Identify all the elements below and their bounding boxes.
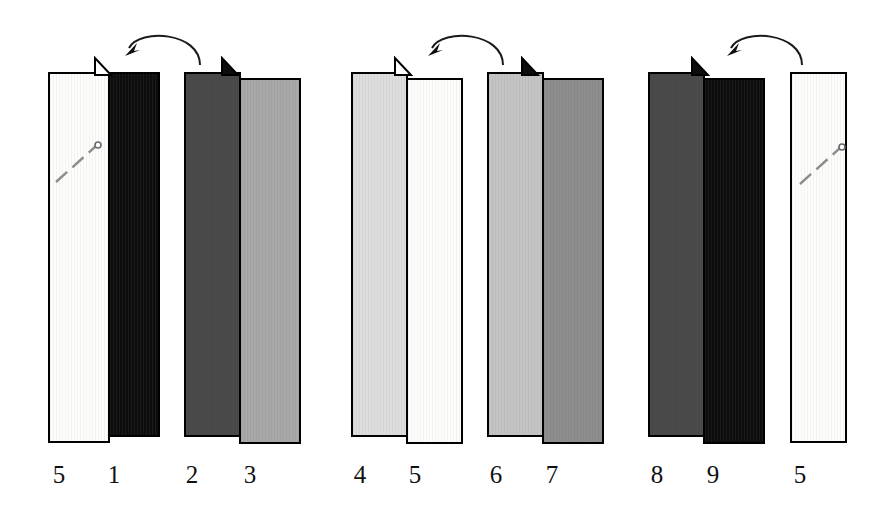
panel-number-label-5: 4 [340,462,380,487]
panel-number-label-11: 5 [780,462,820,487]
pin-marker-1 [52,140,108,186]
panel-number-label-3: 2 [172,462,212,487]
hinge-marker-2 [219,56,241,76]
panel-number-label-4: 3 [230,462,270,487]
panel-pairs-figure: 51234567895 [0,0,888,505]
panel-number-label-1: 5 [39,462,79,487]
panel-8 [648,72,705,437]
panel-number-label-6: 5 [395,462,435,487]
panel-9 [703,78,765,444]
flip-arrow-3 [720,24,808,66]
flip-arrow-2 [421,24,509,66]
panel-5 [406,78,463,444]
hinge-marker-4 [519,56,541,76]
panel-2 [184,72,241,437]
panel-4 [351,72,408,437]
panel-number-label-7: 6 [476,462,516,487]
hinge-marker-3 [392,56,414,76]
panel-7 [542,78,604,444]
hinge-marker-1 [92,56,114,76]
panel-number-label-9: 8 [637,462,677,487]
flip-arrow-1 [118,24,206,66]
panel-number-label-8: 7 [532,462,572,487]
panel-number-label-10: 9 [693,462,733,487]
panel-5 [48,72,110,443]
panel-3 [239,78,301,444]
hinge-marker-5 [689,56,711,76]
panel-1 [108,72,160,437]
figure-stage: 51234567895 [0,0,888,505]
pin-marker-2 [796,142,852,188]
panel-number-label-2: 1 [94,462,134,487]
panel-5 [790,72,847,443]
panel-6 [487,72,544,437]
